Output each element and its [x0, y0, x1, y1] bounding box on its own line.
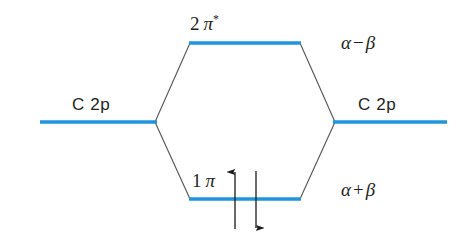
bonding-orbital-number: 1: [192, 170, 202, 191]
bonding-orbital-symbol: π: [206, 170, 216, 191]
label-bonding-energy: α+β: [341, 180, 375, 199]
mo-diagram-figure: 2π* α−β C 2p C 2p 1π α+β: [0, 0, 473, 233]
mo-diagram-canvas: [0, 0, 473, 233]
bonding-beta: β: [366, 179, 375, 200]
correlation-line-right-lower: [300, 122, 335, 199]
antibonding-operator: −: [351, 32, 366, 53]
label-antibonding-orbital: 2π*: [190, 14, 219, 33]
label-antibonding-energy: α−β: [341, 33, 375, 52]
antibonding-orbital-symbol: π: [204, 13, 214, 34]
correlation-line-left-lower: [155, 122, 190, 199]
correlation-line-left-upper: [155, 43, 190, 122]
antibonding-beta: β: [366, 32, 375, 53]
label-atomic-orbital-left: C 2p: [72, 96, 110, 113]
correlation-line-right-upper: [300, 43, 335, 122]
label-atomic-orbital-right: C 2p: [358, 96, 396, 113]
bonding-operator: +: [351, 179, 366, 200]
label-bonding-orbital: 1π: [192, 171, 215, 190]
antibonding-alpha: α: [341, 32, 351, 53]
bonding-alpha: α: [341, 179, 351, 200]
antibonding-orbital-superscript: *: [213, 13, 219, 26]
antibonding-orbital-number: 2: [190, 13, 200, 34]
